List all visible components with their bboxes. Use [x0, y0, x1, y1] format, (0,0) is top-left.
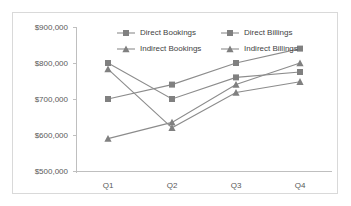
x-axis-label-q3: Q3: [231, 181, 242, 190]
legend-item-direct-bookings[interactable]: Direct Bookings: [117, 28, 196, 37]
legend-label: Indirect Billings: [244, 44, 298, 53]
legend-label: Indirect Bookings: [140, 44, 201, 53]
legend-label: Direct Bookings: [140, 28, 196, 37]
data-point: [105, 96, 111, 102]
data-point: [232, 81, 239, 88]
chart-legend: Direct BookingsDirect BillingsIndirect B…: [117, 28, 298, 53]
y-axis-label-900000: $900,000: [35, 23, 69, 32]
x-axis-label-q4: Q4: [295, 181, 306, 190]
line-chart: $900,000 $800,000 $700,000 $600,000 $500…: [13, 13, 337, 193]
data-point: [233, 60, 239, 66]
y-axis-label-800000: $800,000: [35, 59, 69, 68]
y-axis-label-600000: $600,000: [35, 131, 69, 140]
data-point: [169, 96, 175, 102]
series-indirect-billings: [104, 66, 303, 131]
data-point: [233, 74, 239, 80]
x-axis-label-q1: Q1: [103, 181, 114, 190]
series-polyline: [108, 63, 300, 99]
legend-marker-square-icon: [227, 30, 233, 36]
x-axis: Q1 Q2 Q3 Q4: [77, 172, 332, 191]
y-axis-ticks: [73, 28, 77, 172]
data-point: [105, 60, 111, 66]
data-point: [297, 69, 303, 75]
y-axis-label-700000: $700,000: [35, 95, 69, 104]
legend-item-direct-billings[interactable]: Direct Billings: [221, 28, 292, 37]
series-indirect-bookings: [104, 59, 303, 141]
x-axis-label-q2: Q2: [167, 181, 178, 190]
chart-container: $900,000 $800,000 $700,000 $600,000 $500…: [12, 12, 338, 194]
series-direct-billings: [105, 60, 303, 102]
series-polyline: [108, 49, 300, 99]
series-polyline: [108, 69, 300, 128]
legend-item-indirect-billings[interactable]: Indirect Billings: [221, 44, 298, 53]
legend-label: Direct Billings: [244, 28, 292, 37]
y-axis: $900,000 $800,000 $700,000 $600,000 $500…: [35, 23, 77, 176]
legend-marker-square-icon: [123, 30, 129, 36]
y-axis-label-500000: $500,000: [35, 167, 69, 176]
data-point: [296, 78, 303, 85]
legend-item-indirect-bookings[interactable]: Indirect Bookings: [117, 44, 201, 53]
series-layer: [104, 46, 303, 142]
data-point: [104, 66, 111, 73]
data-point: [169, 82, 175, 88]
data-point: [297, 46, 303, 52]
data-point: [296, 59, 303, 66]
